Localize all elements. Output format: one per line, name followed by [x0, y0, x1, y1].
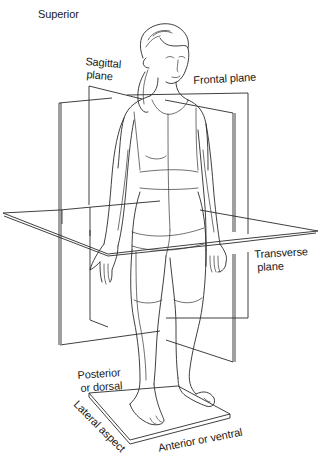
figure-artwork — [0, 0, 321, 459]
frontal-plane — [127, 93, 248, 362]
label-sagittal-plane-line2: plane — [86, 68, 113, 82]
label-transverse-plane-line2: plane — [257, 260, 284, 273]
sagittal-plane — [59, 86, 160, 345]
label-superior: Superior — [38, 8, 79, 20]
anatomical-planes-diagram: Superior Sagittal plane Frontal plane Tr… — [0, 0, 321, 459]
